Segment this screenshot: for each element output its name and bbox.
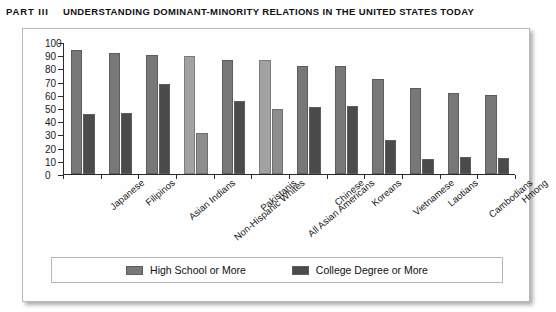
- y-axis-tick: [58, 162, 63, 163]
- bar: [297, 66, 308, 174]
- x-axis-category-label: Asian Indians: [186, 177, 237, 222]
- bar: [272, 109, 283, 174]
- part-title: UNDERSTANDING DOMINANT-MINORITY RELATION…: [63, 6, 474, 17]
- legend-label-high-school: High School or More: [150, 264, 246, 276]
- x-axis-category-label: All Asian Americans: [306, 177, 377, 239]
- bar: [146, 55, 157, 174]
- y-axis-tick-label: 100: [45, 38, 54, 49]
- bar: [460, 157, 471, 174]
- bar: [498, 158, 509, 175]
- y-axis-tick-label: 90: [45, 51, 54, 62]
- legend-swatch-college-degree: [292, 266, 309, 275]
- legend-label-college-degree: College Degree or More: [316, 264, 428, 276]
- y-axis-tick: [58, 96, 63, 97]
- y-axis-tick-label: 0: [45, 170, 54, 181]
- running-head: PART III UNDERSTANDING DOMINANT-MINORITY…: [6, 6, 550, 22]
- y-axis-tick: [58, 109, 63, 110]
- chart-legend: High School or More College Degree or Mo…: [51, 257, 503, 283]
- bar: [372, 79, 383, 174]
- x-axis-tick: [515, 175, 516, 179]
- bar: [335, 66, 346, 174]
- bar: [259, 60, 270, 174]
- bar: [234, 101, 245, 174]
- legend-item-high-school: High School or More: [126, 264, 246, 276]
- y-axis-tick: [58, 122, 63, 123]
- bar: [184, 56, 195, 174]
- y-axis-tick: [58, 149, 63, 150]
- bar: [71, 50, 82, 174]
- y-axis-tick-label: 10: [45, 156, 54, 167]
- y-axis-tick-label: 30: [45, 130, 54, 141]
- x-axis-category-labels: JapaneseFilipinosAsian IndiansNon-Hispan…: [63, 177, 515, 253]
- bar: [422, 159, 433, 174]
- legend-swatch-high-school: [126, 266, 143, 275]
- y-axis-tick: [58, 83, 63, 84]
- y-axis-tick-label: 40: [45, 117, 54, 128]
- figure-panel: 0102030405060708090100 JapaneseFilipinos…: [22, 28, 530, 302]
- bar: [410, 88, 421, 174]
- y-axis-tick-label: 50: [45, 104, 54, 115]
- bar: [347, 106, 358, 174]
- y-axis-tick-label: 20: [45, 143, 54, 154]
- y-axis-tick-label: 70: [45, 77, 54, 88]
- x-axis-category-label: Japanese: [107, 177, 146, 212]
- y-axis-tick: [58, 56, 63, 57]
- part-number: PART III: [6, 6, 49, 17]
- bar: [448, 93, 459, 174]
- y-axis-tick: [58, 69, 63, 70]
- bar: [309, 107, 320, 174]
- chart-plot-area: 0102030405060708090100 JapaneseFilipinos…: [23, 29, 531, 303]
- bar: [196, 133, 207, 174]
- bar: [121, 113, 132, 174]
- chart-axes: 0102030405060708090100: [63, 43, 515, 175]
- bar: [485, 95, 496, 174]
- bar-series-layer: [64, 43, 515, 174]
- y-axis-tick-label: 60: [45, 90, 54, 101]
- x-axis-category-label: Filipinos: [143, 177, 177, 208]
- y-axis-tick: [58, 135, 63, 136]
- bar: [222, 60, 233, 174]
- x-axis-category-label: Koreans: [370, 177, 404, 208]
- bar: [83, 114, 94, 174]
- bar: [109, 53, 120, 174]
- y-axis-tick-label: 80: [45, 64, 54, 75]
- bar: [159, 84, 170, 174]
- legend-item-college-degree: College Degree or More: [292, 264, 428, 276]
- bar: [385, 140, 396, 174]
